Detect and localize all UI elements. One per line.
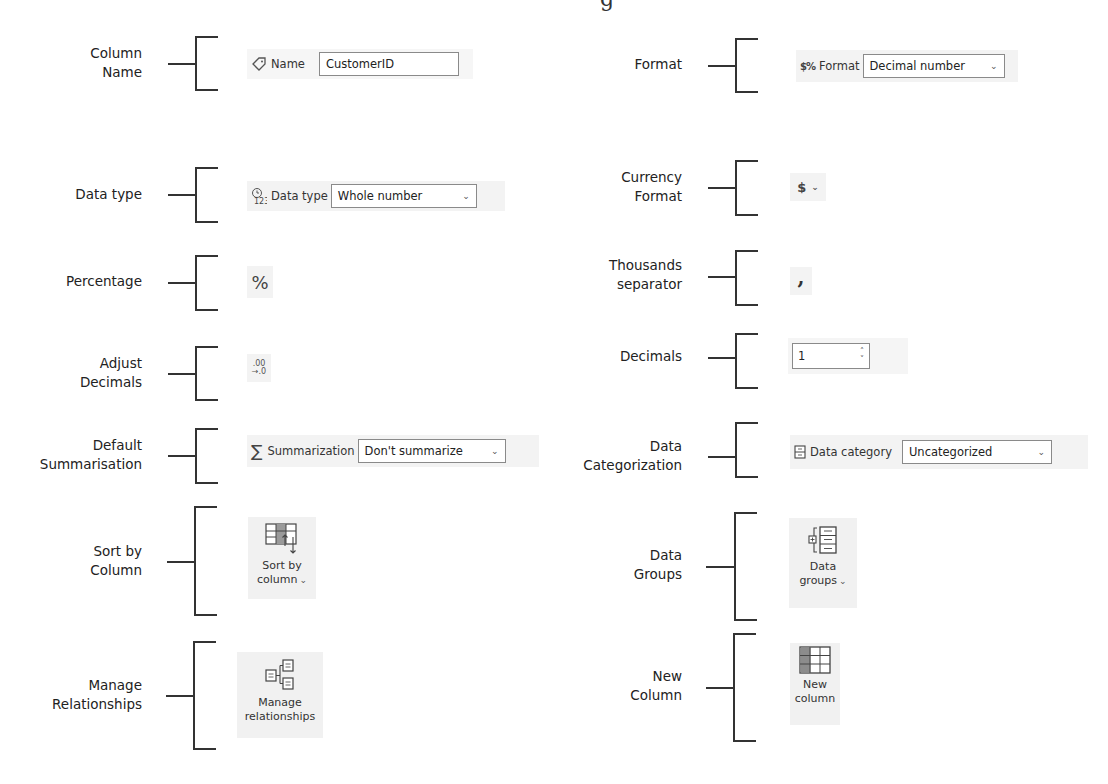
bracket-top (735, 38, 758, 40)
connector-line (168, 63, 196, 65)
chevron-down-icon: ⌄ (811, 182, 819, 192)
stepper-down-icon[interactable]: ˅ (860, 356, 864, 364)
connector-line (708, 456, 736, 458)
bracket (735, 160, 737, 216)
bracket-top (735, 422, 758, 424)
bracket (735, 422, 737, 478)
label-line: Summarisation (0, 455, 142, 474)
label-data-type: Data type (0, 185, 142, 204)
decrease-decimal-button[interactable]: .00 →.0 (247, 354, 271, 382)
bracket (735, 333, 737, 389)
label-line: Decimals (0, 373, 142, 392)
data-category-label: Data category (810, 445, 892, 459)
sort-by-column-button[interactable]: Sort by column⌄ (248, 517, 316, 599)
bracket-bottom (193, 748, 216, 750)
format-dropdown[interactable]: Decimal number ⌄ (863, 54, 1005, 78)
decimals-stepper[interactable]: 1 ˄ ˅ (792, 343, 870, 369)
bracket-bottom (735, 304, 758, 306)
label-line: Sort by (0, 542, 142, 561)
relationships-icon (263, 658, 297, 696)
label-line: Column (532, 686, 682, 705)
label-line: New (532, 667, 682, 686)
comma-icon: , (798, 265, 805, 289)
bracket-top (733, 633, 756, 635)
chevron-down-icon: ⌄ (1037, 447, 1045, 457)
new-column-label-2: column (795, 692, 836, 706)
bracket (735, 250, 737, 306)
name-label: Name (271, 57, 305, 71)
svg-text:123: 123 (254, 197, 267, 205)
label-line: Currency (532, 168, 682, 187)
label-decimals: Decimals (532, 347, 682, 366)
connector-line (168, 455, 196, 457)
summarization-group: ∑ Summarization Don't summarize ⌄ (247, 435, 539, 467)
manage-relationships-button[interactable]: Manage relationships (237, 652, 323, 738)
bracket-top (735, 250, 758, 252)
bracket-top (734, 512, 757, 514)
data-category-dropdown[interactable]: Uncategorized ⌄ (902, 440, 1052, 464)
chevron-down-icon: ⌄ (839, 576, 847, 586)
label-line: Column (0, 561, 142, 580)
label-line: Name (0, 63, 142, 82)
label-line: Column (0, 44, 142, 63)
bracket-top (195, 255, 218, 257)
format-label: Format (819, 59, 860, 73)
connector-line (708, 276, 736, 278)
summarization-dropdown[interactable]: Don't summarize ⌄ (358, 439, 506, 463)
percent-icon: % (251, 272, 268, 293)
label-column-name: Column Name (0, 44, 142, 82)
manage-relationships-label-1: Manage (258, 696, 302, 710)
chevron-down-icon: ⌄ (990, 61, 998, 71)
currency-format-button[interactable]: $ ⌄ (790, 173, 826, 201)
data-type-dropdown[interactable]: Whole number ⌄ (331, 184, 477, 208)
bracket (195, 346, 197, 401)
label-sort-by-column: Sort by Column (0, 542, 142, 580)
cropped-title-fragment: g (600, 0, 614, 11)
stepper-arrows: ˄ ˅ (860, 348, 864, 364)
data-type-group: 123 Data type Whole number ⌄ (247, 181, 505, 211)
label-line: Format (532, 55, 682, 74)
label-line: Categorization (532, 456, 682, 475)
label-percentage: Percentage (0, 272, 142, 291)
summarization-value: Don't summarize (365, 444, 463, 458)
new-column-button[interactable]: New column (790, 643, 840, 725)
label-line: Format (532, 187, 682, 206)
data-category-value: Uncategorized (909, 445, 992, 459)
bracket-bottom (195, 399, 218, 401)
thousands-separator-button[interactable]: , (790, 267, 812, 295)
connector-line (706, 566, 735, 568)
column-name-value: CustomerID (326, 57, 394, 71)
column-name-input[interactable]: CustomerID (319, 52, 459, 76)
label-line: separator (532, 275, 682, 294)
label-line: Default (0, 436, 142, 455)
data-groups-button[interactable]: Data groups⌄ (789, 518, 857, 608)
bracket-top (735, 333, 758, 335)
label-currency-format: Currency Format (532, 168, 682, 206)
sort-by-column-icon (265, 523, 299, 559)
connector-line (708, 357, 736, 359)
new-column-icon (799, 646, 831, 678)
bracket (733, 633, 735, 742)
label-line: Data (532, 546, 682, 565)
bracket-top (195, 36, 218, 38)
connector-line (167, 561, 196, 563)
bracket-bottom (194, 614, 217, 616)
label-line: Percentage (0, 272, 142, 291)
label-new-column: New Column (532, 667, 682, 705)
new-column-label-1: New (803, 678, 827, 692)
format-value: Decimal number (870, 59, 965, 73)
bracket-bottom (735, 476, 758, 478)
sort-by-column-label-2: column⌄ (257, 573, 307, 587)
manage-relationships-label-2: relationships (245, 710, 315, 724)
bracket-bottom (195, 482, 218, 484)
chevron-down-icon: ⌄ (491, 446, 499, 456)
label-line: Data type (0, 185, 142, 204)
percentage-button[interactable]: % (247, 266, 273, 298)
sigma-icon: ∑ (251, 441, 262, 461)
decimals-value: 1 (798, 349, 805, 363)
bracket-bottom (735, 91, 758, 93)
bracket-bottom (195, 221, 218, 223)
data-type-value: Whole number (338, 189, 423, 203)
data-groups-label-1: Data (810, 560, 836, 574)
label-data-groups: Data Groups (532, 546, 682, 584)
